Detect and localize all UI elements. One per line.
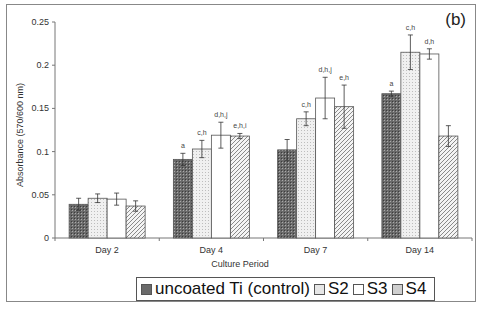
bar <box>297 119 316 238</box>
x-tick-label: Day 14 <box>406 245 435 255</box>
legend-item-s3: S3 <box>353 279 388 299</box>
panel-label: (b) <box>445 10 466 30</box>
bar <box>88 198 107 238</box>
bar <box>192 149 211 238</box>
bar <box>173 159 192 238</box>
significance-annotation: a <box>389 80 393 87</box>
legend-label: S2 <box>328 279 349 299</box>
y-tick-label: 0.05 <box>31 190 49 200</box>
significance-annotation: d,h,j <box>319 66 333 74</box>
y-tick-label: 0.25 <box>31 17 49 27</box>
x-tick-label: Day 4 <box>200 245 224 255</box>
x-tick-label: Day 2 <box>95 245 119 255</box>
bar <box>211 135 230 238</box>
y-tick-label: 0.15 <box>31 103 49 113</box>
legend-item-s2: S2 <box>314 279 349 299</box>
legend-swatch-s4 <box>392 284 403 295</box>
legend-swatch-control <box>141 284 152 295</box>
legend: uncoated Ti (control) S2 S3 S4 <box>136 277 435 301</box>
significance-annotation: c,h <box>197 129 206 136</box>
legend-swatch-s3 <box>353 284 364 295</box>
y-tick-label: 0.2 <box>36 60 49 70</box>
bar <box>439 136 458 238</box>
y-tick-label: 0.1 <box>36 147 49 157</box>
y-axis-label: Absorbance (570/600 nm) <box>15 55 25 215</box>
significance-annotation: a <box>181 142 185 149</box>
x-tick-label: Day 7 <box>304 245 328 255</box>
legend-label: S3 <box>367 279 388 299</box>
significance-annotation: c,h <box>406 24 415 31</box>
bar <box>230 136 249 238</box>
x-axis-label: Culture Period <box>0 259 480 269</box>
significance-annotation: e,h <box>339 74 349 81</box>
legend-label: S4 <box>406 279 427 299</box>
significance-annotation: c,h <box>301 101 310 108</box>
legend-label: uncoated Ti (control) <box>155 279 310 299</box>
bar <box>278 150 297 238</box>
legend-item-control: uncoated Ti (control) <box>141 279 310 299</box>
bar <box>382 94 401 238</box>
significance-annotation: e,h,i <box>233 122 247 129</box>
legend-swatch-s2 <box>314 284 325 295</box>
y-tick-label: 0 <box>44 233 49 243</box>
significance-annotation: d,h,j <box>214 111 228 119</box>
significance-annotation: d,h <box>425 38 435 45</box>
bar <box>401 52 420 238</box>
legend-item-s4: S4 <box>392 279 427 299</box>
bar <box>420 54 439 238</box>
